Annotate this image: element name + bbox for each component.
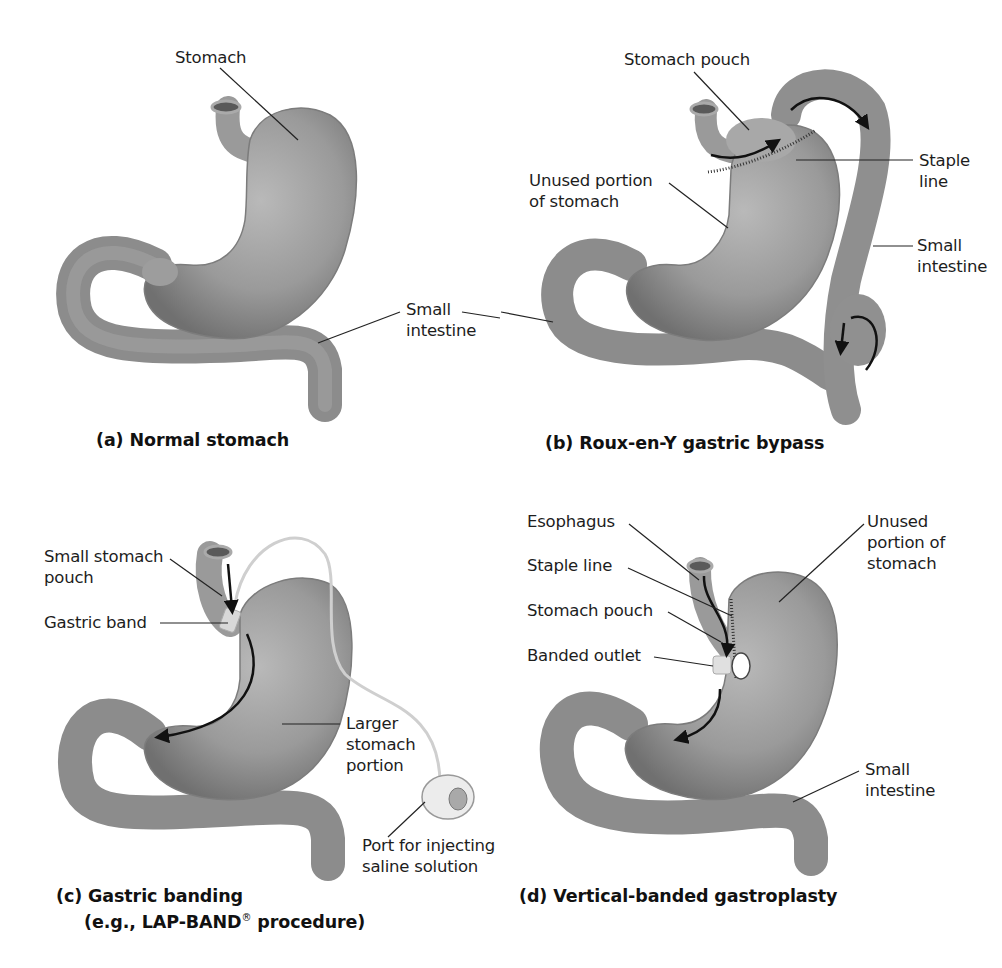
label-esophagus: Esophagus xyxy=(527,512,615,531)
label-small-stomach-pouch-line1: Small stomach xyxy=(44,547,163,566)
label-small-intestine-line1: Small xyxy=(917,236,962,255)
label-stomach-pouch: Stomach pouch xyxy=(527,601,653,620)
panel-a-normal-stomach: Stomach Small intestine (a) Normal stoma… xyxy=(0,0,501,484)
label-larger-stomach-line2: stomach xyxy=(346,735,415,754)
panel-c-gastric-banding: Small stomach pouch Gastric band Larger … xyxy=(0,484,501,968)
label-banded-outlet: Banded outlet xyxy=(527,646,641,665)
caption-d: (d) Vertical-banded gastroplasty xyxy=(519,886,837,907)
caption-b: (b) Roux-en-Y gastric bypass xyxy=(545,433,824,454)
label-gastric-band: Gastric band xyxy=(44,613,147,632)
caption-c-line2-pre: (e.g., LAP-BAND xyxy=(84,912,241,932)
label-small-intestine-line2: intestine xyxy=(865,781,935,800)
caption-c-line2-post: procedure) xyxy=(251,912,365,932)
label-staple-line: Staple line xyxy=(527,556,612,575)
label-small-intestine-line2: intestine xyxy=(406,321,476,340)
label-unused-portion-line3: stomach xyxy=(867,554,936,573)
label-unused-portion-line1: Unused portion xyxy=(529,171,653,190)
normal-stomach-illustration xyxy=(0,0,501,484)
panel-d-vertical-banded-gastroplasty: Esophagus Staple line Stomach pouch Band… xyxy=(501,484,1002,968)
panel-b-roux-en-y: Stomach pouch Unused portion of stomach … xyxy=(501,0,1002,484)
registered-mark: ® xyxy=(241,912,251,923)
label-staple-line-line2: line xyxy=(919,172,948,191)
label-small-intestine-line1: Small xyxy=(865,760,910,779)
label-small-intestine-line2: intestine xyxy=(917,257,987,276)
label-port-line1: Port for injecting xyxy=(362,836,495,855)
caption-c-line2: (e.g., LAP-BAND® procedure) xyxy=(84,907,365,933)
label-stomach: Stomach xyxy=(175,48,246,67)
label-port-line2: saline solution xyxy=(362,857,478,876)
label-stomach-pouch: Stomach pouch xyxy=(624,50,750,69)
label-unused-portion-line2: portion of xyxy=(867,533,945,552)
label-staple-line-line1: Staple xyxy=(919,151,970,170)
label-larger-stomach-line3: portion xyxy=(346,756,404,775)
label-larger-stomach-line1: Larger xyxy=(346,714,398,733)
label-unused-portion-line1: Unused xyxy=(867,512,928,531)
label-small-intestine-line1: Small xyxy=(406,300,451,319)
caption-a: (a) Normal stomach xyxy=(96,430,289,451)
label-small-stomach-pouch-line2: pouch xyxy=(44,568,94,587)
label-unused-portion-line2: of stomach xyxy=(529,192,619,211)
caption-c-line1: (c) Gastric banding xyxy=(56,886,243,907)
